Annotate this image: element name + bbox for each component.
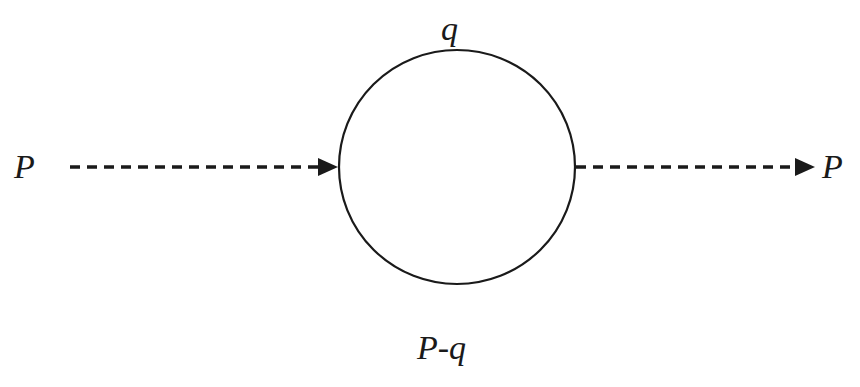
loop-bottom-momentum-label: P-q <box>416 329 466 366</box>
feynman-diagram: P P q P-q <box>0 0 860 387</box>
outgoing-momentum-label: P <box>821 148 843 185</box>
outgoing-arrow-icon <box>795 158 815 176</box>
loop-circle <box>339 50 575 284</box>
loop-top-momentum-label: q <box>441 10 458 47</box>
incoming-momentum-label: P <box>13 148 35 185</box>
incoming-arrow-icon <box>318 158 338 176</box>
